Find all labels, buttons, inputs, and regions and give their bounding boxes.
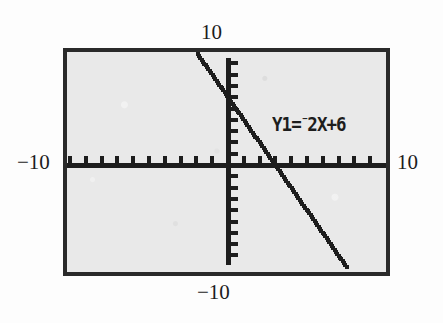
x-axis-tick [179, 156, 183, 163]
x-axis-tick [242, 156, 246, 163]
y-axis-tick [231, 129, 238, 133]
calculator-screen: Y1=⁻2X+6 [67, 52, 386, 272]
y-axis-tick [231, 174, 238, 178]
x-axis-tick [289, 156, 293, 163]
x-axis-tick [115, 156, 119, 163]
y-axis-tick [231, 152, 238, 156]
equation-expression: 2X+6 [307, 113, 345, 135]
calculator-screen-frame: Y1=⁻2X+6 [63, 48, 390, 276]
y-axis-tick [231, 253, 238, 257]
y-axis-tick [231, 231, 238, 235]
y-axis-tick [231, 61, 238, 65]
y-axis-tick [231, 118, 238, 122]
x-axis-tick [100, 156, 104, 163]
label-x-min: −10 [17, 152, 50, 173]
x-axis-tick [337, 156, 341, 163]
x-axis-tick [163, 156, 167, 163]
x-axis-tick [321, 156, 325, 163]
x-axis-tick [258, 156, 262, 163]
x-axis-tick [352, 156, 356, 163]
x-axis-tick [147, 156, 151, 163]
y-axis-tick [231, 208, 238, 212]
y-axis-tick [231, 140, 238, 144]
label-x-max: 10 [397, 152, 418, 173]
y-axis-tick [231, 73, 238, 77]
x-axis-tick [305, 156, 309, 163]
y-axis-tick [231, 84, 238, 88]
y-axis-tick [231, 95, 238, 99]
x-axis-tick [68, 156, 72, 163]
y-axis-tick [231, 197, 238, 201]
x-axis-tick [131, 156, 135, 163]
x-axis-tick [368, 156, 372, 163]
x-axis-tick [210, 156, 214, 163]
equation-prefix: Y1= [272, 113, 301, 135]
equation-label: Y1=⁻2X+6 [272, 112, 346, 135]
y-axis-tick [231, 242, 238, 246]
x-axis-tick [194, 156, 198, 163]
y-axis-tick [231, 186, 238, 190]
y-axis-tick [231, 220, 238, 224]
label-y-max: 10 [201, 22, 222, 43]
plot-pixel [345, 265, 349, 269]
label-y-min: −10 [197, 282, 230, 303]
figure-page: Y1=⁻2X+6 10 −10 10 −10 [0, 0, 443, 323]
x-axis-tick [84, 156, 88, 163]
